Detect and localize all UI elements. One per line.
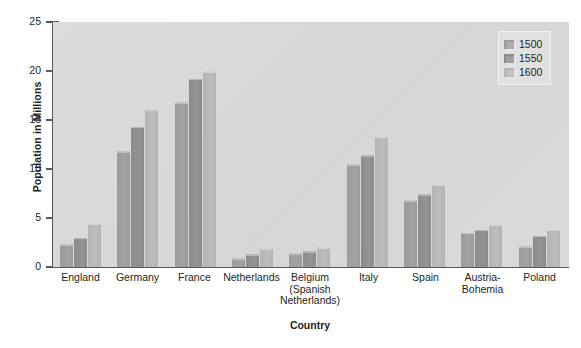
bar-group — [396, 22, 453, 267]
bar-face — [189, 79, 202, 267]
bar-top-highlight — [145, 109, 158, 111]
bar — [317, 247, 330, 267]
bar-face — [145, 109, 158, 267]
bar-group — [109, 22, 166, 267]
bar-top-highlight — [88, 224, 101, 226]
legend-item: 1600 — [504, 65, 542, 79]
bar-face — [117, 151, 130, 267]
legend-swatch-icon — [504, 68, 514, 77]
bar-top-highlight — [533, 236, 546, 238]
x-axis-tick-labels: EnglandGermanyFranceNetherlandsBelgium(S… — [52, 272, 568, 307]
bar-top-highlight — [175, 102, 188, 104]
bar-top-highlight — [117, 151, 130, 153]
bar-face — [475, 230, 488, 267]
bar — [260, 248, 273, 267]
bar-face — [533, 236, 546, 267]
bar — [489, 225, 502, 267]
bar — [303, 251, 316, 267]
bar-group — [281, 22, 338, 267]
bar — [533, 236, 546, 267]
bar-face — [303, 251, 316, 267]
legend-item: 1500 — [504, 37, 542, 51]
bar-top-highlight — [289, 253, 302, 255]
bar-face — [375, 137, 388, 267]
bar-face — [489, 225, 502, 267]
bar-groups — [52, 22, 568, 267]
y-axis-tick-label: 20 — [29, 64, 41, 76]
figure-caption — [14, 341, 574, 348]
bar-face — [203, 71, 216, 267]
bar — [347, 164, 360, 267]
bar — [289, 253, 302, 267]
bar — [246, 254, 259, 267]
x-axis-tick-label: Germany — [109, 272, 166, 307]
bar — [175, 102, 188, 267]
bar-face — [74, 238, 87, 267]
bar-top-highlight — [232, 258, 245, 260]
bar — [232, 258, 245, 267]
bar-face — [461, 233, 474, 267]
bar — [131, 127, 144, 267]
bar-top-highlight — [131, 127, 144, 129]
legend-label: 1550 — [519, 53, 542, 64]
bar-group — [339, 22, 396, 267]
bar — [404, 200, 417, 267]
bar-top-highlight — [375, 137, 388, 139]
x-axis-tick-label: Belgium(SpanishNetherlands) — [280, 272, 340, 307]
x-axis-tick-label: Austria-Bohemia — [454, 272, 511, 307]
bar-face — [519, 246, 532, 267]
bar — [60, 244, 73, 267]
bar — [88, 224, 101, 267]
bar-top-highlight — [461, 233, 474, 235]
bar — [117, 151, 130, 267]
bar-face — [361, 155, 374, 267]
bar-face — [131, 127, 144, 267]
bar-top-highlight — [489, 225, 502, 227]
bar — [475, 230, 488, 267]
bar-face — [432, 185, 445, 267]
bar-face — [88, 224, 101, 267]
bar-top-highlight — [418, 194, 431, 196]
y-axis-tick-label: 15 — [29, 113, 41, 125]
figure-bar-chart: Population in Millions 0510152025 Englan… — [0, 0, 581, 348]
legend-item: 1550 — [504, 51, 542, 65]
legend: 150015501600 — [498, 31, 551, 85]
bar-face — [347, 164, 360, 267]
bar-face — [547, 230, 560, 267]
legend-swatch-icon — [504, 54, 514, 63]
x-axis-title: Country — [52, 319, 568, 331]
bar-top-highlight — [361, 155, 374, 157]
y-axis-tick-label: 0 — [35, 260, 41, 272]
y-axis-tick-label: 25 — [29, 15, 41, 27]
bar-face — [317, 247, 330, 267]
bar-top-highlight — [347, 164, 360, 166]
bar-top-highlight — [404, 200, 417, 202]
bar-top-highlight — [74, 238, 87, 240]
x-axis-tick-label: France — [166, 272, 223, 307]
bar-group — [52, 22, 109, 267]
bar-top-highlight — [317, 247, 330, 249]
bar-face — [418, 194, 431, 267]
bar-face — [289, 253, 302, 267]
bar — [74, 238, 87, 267]
bar-top-highlight — [189, 79, 202, 81]
bar — [461, 233, 474, 267]
bar-top-highlight — [519, 246, 532, 248]
bar-face — [404, 200, 417, 267]
x-axis-tick-label: Italy — [340, 272, 397, 307]
bar-top-highlight — [60, 244, 73, 246]
bar-group — [167, 22, 224, 267]
bar-top-highlight — [475, 230, 488, 232]
bar — [189, 79, 202, 267]
bar — [361, 155, 374, 267]
bar-face — [175, 102, 188, 267]
x-axis-tick-label: Netherlands — [223, 272, 280, 307]
bar-group — [224, 22, 281, 267]
bar — [145, 109, 158, 267]
bar-face — [246, 254, 259, 267]
bar — [547, 230, 560, 267]
legend-label: 1500 — [519, 39, 542, 50]
bar-top-highlight — [203, 71, 216, 73]
y-axis-tick-label: 10 — [29, 162, 41, 174]
bar-face — [260, 248, 273, 267]
